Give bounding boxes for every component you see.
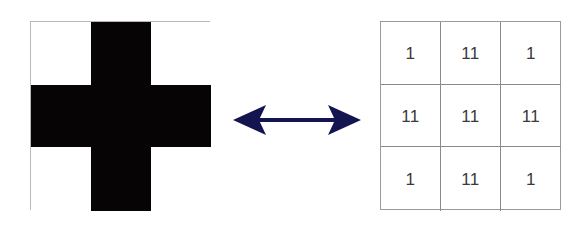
matrix-cell-r2-c0: 1 [381, 147, 441, 211]
pixel-cell-r2-c2 [151, 147, 211, 211]
matrix-cell-r2-c1: 11 [441, 147, 501, 211]
matrix-cell-r0-c2: 1 [501, 22, 561, 85]
matrix-cell-r1-c0: 11 [381, 85, 441, 147]
pixel-cell-r1-c2 [151, 85, 211, 147]
pixel-cell-r1-c1 [91, 85, 151, 147]
pixel-cell-r0-c2 [151, 22, 211, 85]
pixel-cell-r1-c0 [31, 85, 91, 147]
matrix-cell-r1-c1: 11 [441, 85, 501, 147]
pixel-cell-r2-c1 [91, 147, 151, 211]
pixel-cell-r2-c0 [31, 147, 91, 211]
pixel-cell-r0-c1 [91, 22, 151, 85]
numeric-matrix-grid: 1 11 1 11 11 11 1 11 1 [380, 21, 561, 210]
binary-image-grid [30, 21, 210, 210]
matrix-cell-r2-c2: 1 [501, 147, 561, 211]
matrix-cell-r0-c0: 1 [381, 22, 441, 85]
pixel-cell-r0-c0 [31, 22, 91, 85]
double-headed-arrow-icon [230, 100, 364, 140]
matrix-cell-r1-c2: 11 [501, 85, 561, 147]
matrix-cell-r0-c1: 11 [441, 22, 501, 85]
